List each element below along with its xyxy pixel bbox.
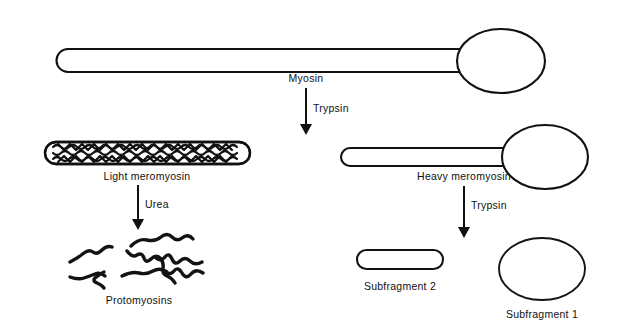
subfragment-2-molecule: Subfragment 2 — [357, 250, 443, 292]
heavy-meromyosin-molecule: Heavy meromyosin — [341, 125, 588, 189]
protomyosin-strands — [70, 235, 203, 289]
arrow-head — [132, 219, 144, 230]
arrow-head — [300, 124, 312, 135]
protomyosins-group: Protomyosins — [70, 235, 203, 307]
heavy-meromyosin-head — [502, 125, 588, 189]
subfragment-2-label: Subfragment 2 — [364, 280, 436, 292]
myosin-cleavage-diagram: Myosin Trypsin Light meromyosin U — [0, 0, 618, 331]
arrow-lmm-denaturation: Urea — [132, 185, 169, 230]
arrow-head — [458, 227, 470, 238]
subfragment-2-capsule — [357, 250, 443, 269]
subfragment-1-molecule: Subfragment 1 — [499, 238, 585, 320]
arrow-label-urea: Urea — [145, 198, 169, 210]
myosin-label: Myosin — [289, 72, 324, 84]
arrow-hmm-cleavage: Trypsin — [458, 186, 507, 238]
light-meromyosin-label: Light meromyosin — [104, 170, 191, 182]
arrow-label-trypsin-1: Trypsin — [313, 102, 349, 114]
myosin-rod — [57, 49, 471, 72]
subfragment-1-label: Subfragment 1 — [506, 308, 578, 320]
myosin-head — [457, 29, 545, 93]
subfragment-1-ellipse — [499, 238, 585, 300]
arrow-myosin-cleavage: Trypsin — [300, 88, 349, 135]
protomyosins-label: Protomyosins — [106, 294, 173, 306]
myosin-molecule: Myosin — [57, 29, 546, 93]
arrow-label-trypsin-2: Trypsin — [471, 199, 507, 211]
heavy-meromyosin-rod — [341, 148, 515, 166]
heavy-meromyosin-label: Heavy meromyosin — [417, 170, 511, 182]
light-meromyosin-molecule: Light meromyosin — [45, 142, 250, 182]
